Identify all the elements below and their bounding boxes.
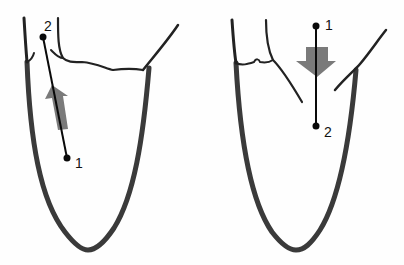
- left-vessel-right: [58, 18, 143, 70]
- left-panel: 2 1: [24, 18, 178, 250]
- diagram-svg: 2 1 1 2: [0, 0, 404, 265]
- left-vessel-far-right: [143, 25, 178, 70]
- left-ventricle-wall: [27, 62, 149, 250]
- left-point-1: [64, 155, 71, 162]
- right-label-2: 2: [324, 124, 332, 140]
- diagram-canvas: 2 1 1 2: [0, 0, 404, 265]
- right-vessel-left: [232, 20, 236, 63]
- left-label-1: 1: [75, 155, 83, 171]
- left-label-2: 2: [44, 18, 52, 34]
- right-panel: 1 2: [232, 17, 386, 250]
- right-point-1: [313, 23, 320, 30]
- right-leaflet: [335, 30, 386, 90]
- left-vessel-left: [24, 18, 27, 62]
- left-point-2: [40, 34, 47, 41]
- right-base-line: [236, 59, 273, 64]
- right-label-1: 1: [325, 17, 333, 33]
- right-point-2: [313, 123, 320, 130]
